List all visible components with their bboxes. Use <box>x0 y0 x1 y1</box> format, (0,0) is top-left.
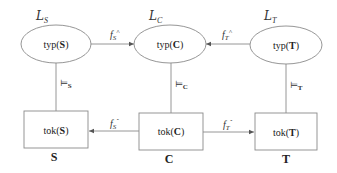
classification-label-s: S <box>51 150 58 164</box>
edge-label-fs-hat: fS^ <box>110 28 120 42</box>
type-node-c-label: typ(C) <box>157 39 184 51</box>
edge-label-fs-check: fSˇ <box>110 117 119 131</box>
type-node-t-label: typ(T) <box>273 40 299 52</box>
token-node-s-label: tok(S) <box>43 125 68 137</box>
entailment-label-c: ⊨C <box>175 79 188 91</box>
edge-label-ft-hat: fT^ <box>222 28 233 42</box>
language-label-t: LT <box>263 9 277 25</box>
entailment-label-t: ⊨T <box>290 80 303 92</box>
classification-label-c: C <box>165 152 174 166</box>
entailment-label-s: ⊨S <box>60 78 72 90</box>
token-node-t-label: tok(T) <box>273 127 299 139</box>
channel-diagram: LS LC LT typ(S) typ(C) typ(T) tok(S) tok… <box>0 0 337 173</box>
type-node-s-label: typ(S) <box>43 39 68 51</box>
language-label-s: LS <box>35 9 48 25</box>
edge-label-ft-check: fTˇ <box>223 118 233 132</box>
token-node-c-label: tok(C) <box>158 126 185 138</box>
language-label-c: LC <box>148 9 163 25</box>
classification-label-t: T <box>282 152 290 166</box>
